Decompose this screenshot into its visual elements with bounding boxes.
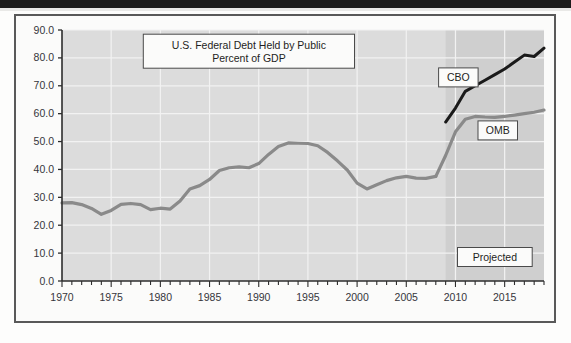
chart-title-text: Percent of GDP — [212, 52, 286, 64]
x-tick-label: 1990 — [247, 291, 271, 303]
x-tick-label: 2005 — [395, 291, 419, 303]
y-tick-label: 0.0 — [39, 275, 54, 287]
y-tick-label: 30.0 — [34, 191, 55, 203]
x-tick-label: 2000 — [345, 291, 369, 303]
y-tick-label: 60.0 — [34, 107, 55, 119]
scan-top-band-shadow — [0, 8, 571, 11]
x-tick-label: 1970 — [50, 291, 74, 303]
x-tick-label: 2010 — [444, 291, 468, 303]
y-tick-label: 70.0 — [34, 79, 55, 91]
projected-label-box: Projected — [458, 248, 533, 267]
y-tick-label: 20.0 — [34, 219, 55, 231]
y-tick-label: 40.0 — [34, 163, 55, 175]
cbo-label-box: CBO — [439, 68, 479, 87]
figure-page: 0.010.020.030.040.050.060.070.080.090.01… — [0, 0, 571, 343]
x-tick-label: 2015 — [493, 291, 517, 303]
figure-frame: 0.010.020.030.040.050.060.070.080.090.01… — [14, 14, 556, 323]
chart-title-text: U.S. Federal Debt Held by Public — [172, 39, 326, 51]
y-tick-label: 50.0 — [34, 135, 55, 147]
x-tick-label: 1985 — [198, 291, 222, 303]
omb-label-text: OMB — [486, 124, 510, 136]
chart-svg: 0.010.020.030.040.050.060.070.080.090.01… — [16, 16, 558, 325]
x-tick-label: 1980 — [149, 291, 173, 303]
y-tick-label: 10.0 — [34, 247, 55, 259]
y-tick-label: 80.0 — [34, 51, 55, 63]
x-tick-label: 1975 — [100, 291, 124, 303]
scan-top-band — [0, 0, 571, 8]
projected-label-text: Projected — [473, 251, 518, 263]
omb-label-box: OMB — [478, 121, 518, 140]
x-tick-label: 1995 — [296, 291, 320, 303]
chart-title-box: U.S. Federal Debt Held by PublicPercent … — [143, 34, 354, 68]
cbo-label-text: CBO — [447, 71, 470, 83]
debt-chart: 0.010.020.030.040.050.060.070.080.090.01… — [16, 16, 558, 325]
y-tick-label: 90.0 — [34, 24, 55, 36]
